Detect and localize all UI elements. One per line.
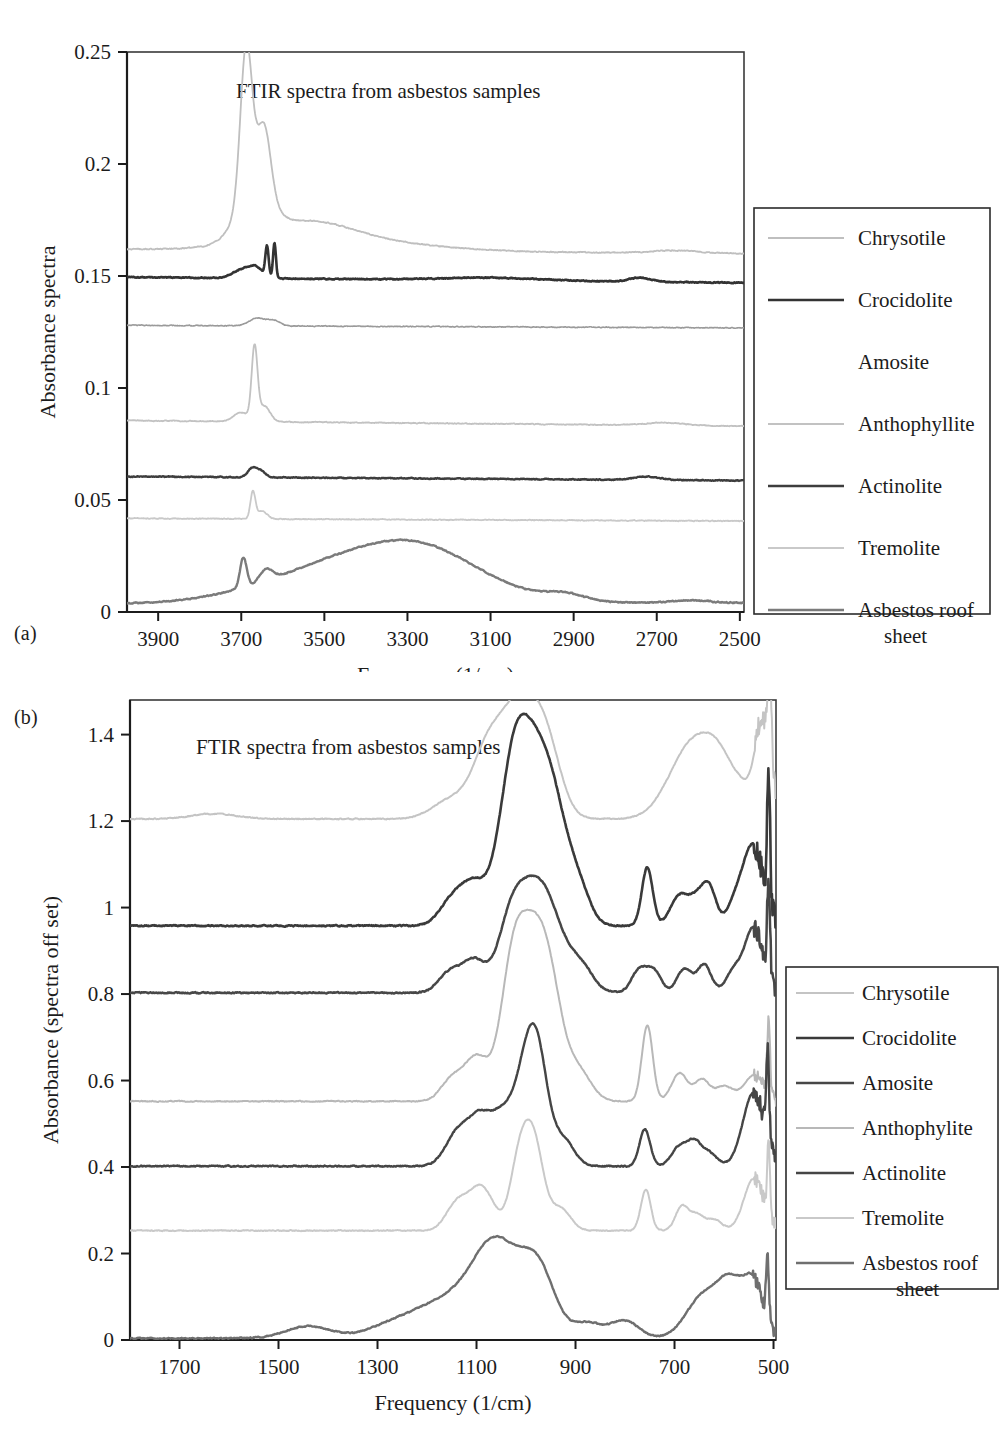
x-tick-label: 1100 [456, 1355, 497, 1379]
spectrum-line [130, 910, 776, 1106]
spectrum-line [130, 1120, 776, 1232]
x-tick-label: 700 [659, 1355, 691, 1379]
x-tick-label: 900 [560, 1355, 592, 1379]
subplot-label-b: (b) [14, 706, 38, 729]
legend-label: Amosite [858, 350, 929, 374]
plot-frame [130, 700, 776, 1340]
y-tick-label: 0.05 [74, 488, 111, 512]
legend-label: Chrysotile [862, 981, 950, 1005]
y-tick-label: 0.8 [88, 982, 114, 1006]
x-tick-label: 2900 [553, 627, 595, 651]
legend-label: Tremolite [862, 1206, 944, 1230]
spectra-group [130, 672, 776, 1339]
y-tick-label: 0.4 [88, 1155, 115, 1179]
y-tick-label: 0.2 [85, 152, 111, 176]
y-tick-label: 1 [104, 896, 115, 920]
spectrum-line [127, 42, 744, 254]
spectrum-line [130, 1236, 776, 1339]
y-tick-label: 0.25 [74, 40, 111, 64]
panel-a-svg: 00.050.10.150.20.25390037003500330031002… [0, 0, 1003, 672]
legend-label: Crocidolite [862, 1026, 956, 1050]
y-tick-label: 0.6 [88, 1069, 114, 1093]
legend: ChrysotileCrocidoliteAmositeAnthophyllit… [754, 208, 990, 648]
x-axis: 39003700350033003100290027002500 [137, 612, 761, 651]
spectrum-line [127, 467, 744, 481]
x-tick-label: 1700 [159, 1355, 201, 1379]
legend-label: Amosite [862, 1071, 933, 1095]
spectrum-line [127, 318, 744, 329]
x-tick-label: 3500 [303, 627, 345, 651]
spectrum-line [130, 1023, 776, 1167]
y-tick-label: 0.15 [74, 264, 111, 288]
legend-item[interactable]: Amosite [858, 350, 929, 374]
x-tick-label: 3300 [386, 627, 428, 651]
x-tick-label: 3100 [470, 627, 512, 651]
spectrum-line [127, 344, 744, 426]
y-axis-title: Absorbance (spectra off set) [38, 896, 63, 1144]
legend-label: Actinolite [862, 1161, 946, 1185]
figure-ftir-asbestos-spectra: 00.050.10.150.20.25390037003500330031002… [0, 0, 1003, 1455]
x-tick-label: 500 [758, 1355, 790, 1379]
legend-label: Asbestos roofsheet [858, 598, 974, 648]
chart-panel-a: 00.050.10.150.20.25390037003500330031002… [0, 0, 1003, 672]
x-tick-label: 3900 [137, 627, 179, 651]
y-axis-title: Absorbance spectra [35, 245, 60, 418]
chart-panel-b: 00.20.40.60.811.21.417001500130011009007… [0, 672, 1003, 1455]
spectrum-line [127, 243, 744, 283]
x-tick-label: 1500 [258, 1355, 300, 1379]
x-tick-label: 3700 [220, 627, 262, 651]
x-axis-title: Frequency (1/cm) [357, 662, 514, 672]
y-tick-label: 0.2 [88, 1242, 114, 1266]
chart-title: FTIR spectra from asbestos samples [196, 735, 500, 759]
y-tick-label: 1.2 [88, 809, 114, 833]
spectrum-line [127, 491, 744, 522]
y-tick-label: 0.1 [85, 376, 111, 400]
legend-label: Tremolite [858, 536, 940, 560]
plot-frame [127, 52, 744, 612]
legend-label: Anthophyllite [858, 412, 975, 436]
legend-label: Chrysotile [858, 226, 946, 250]
y-tick-label: 1.4 [88, 723, 115, 747]
spectrum-line [127, 539, 744, 603]
subplot-label-a: (a) [14, 622, 37, 645]
legend-label: Anthophylite [862, 1116, 973, 1140]
x-axis-title: Frequency (1/cm) [375, 1390, 532, 1415]
x-axis: 1700150013001100900700500 [159, 1340, 790, 1379]
y-axis: 00.050.10.150.20.25 [74, 40, 127, 624]
x-tick-label: 2500 [719, 627, 761, 651]
y-tick-label: 0 [101, 600, 112, 624]
panel-b-svg: 00.20.40.60.811.21.417001500130011009007… [0, 672, 1003, 1455]
legend-label: Crocidolite [858, 288, 952, 312]
chart-title: FTIR spectra from asbestos samples [236, 79, 540, 103]
x-tick-label: 2700 [636, 627, 678, 651]
y-tick-label: 0 [104, 1328, 115, 1352]
spectra-group [127, 42, 744, 604]
legend: ChrysotileCrocidoliteAmositeAnthophylite… [786, 967, 998, 1301]
y-axis: 00.20.40.60.811.21.4 [88, 723, 130, 1352]
legend-label: Actinolite [858, 474, 942, 498]
x-tick-label: 1300 [357, 1355, 399, 1379]
